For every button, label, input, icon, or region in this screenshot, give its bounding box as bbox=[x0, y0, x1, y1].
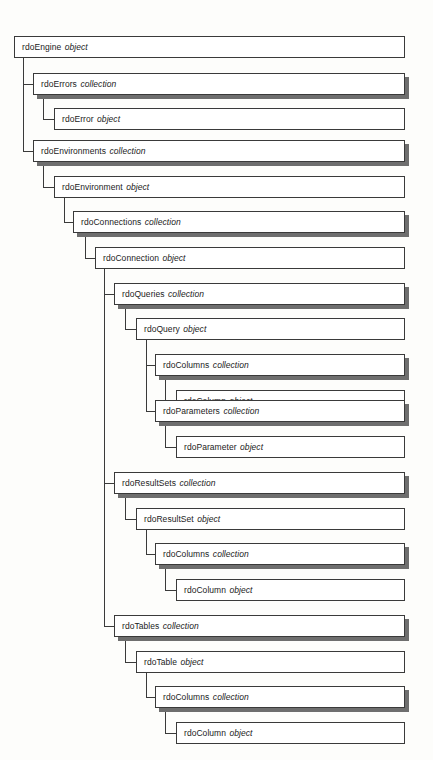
node-rdoEngine: rdoEngineobject bbox=[14, 36, 405, 58]
node-rdoTables: rdoTablescollection bbox=[114, 615, 405, 637]
node-label-name: rdoConnections bbox=[81, 217, 141, 227]
node-label-name: rdoErrors bbox=[41, 79, 77, 89]
node-rdoResultSets: rdoResultSetscollection bbox=[114, 472, 405, 494]
node-label-name: rdoColumns bbox=[163, 360, 209, 370]
node-label-name: rdoParameter bbox=[184, 442, 237, 452]
node-label-name: rdoColumn bbox=[184, 728, 226, 738]
node-rdoParameters: rdoParameterscollection bbox=[155, 400, 405, 422]
connector-vertical bbox=[43, 162, 44, 187]
node-label-name: rdoEnvironment bbox=[62, 182, 123, 192]
node-rdoError: rdoErrorobject bbox=[54, 108, 405, 130]
node-rdoResultSet-rdoColumn: rdoColumnobject bbox=[176, 579, 405, 601]
connector-vertical bbox=[146, 530, 147, 554]
node-rdoTable-rdoColumn: rdoColumnobject bbox=[176, 722, 405, 744]
node-label-name: rdoColumns bbox=[163, 692, 209, 702]
node-rdoTable: rdoTableobject bbox=[136, 651, 405, 673]
connector-vertical bbox=[146, 673, 147, 697]
node-label-name: rdoEngine bbox=[22, 42, 61, 52]
connector-vertical bbox=[165, 708, 166, 733]
connector-vertical bbox=[125, 637, 126, 662]
node-rdoQuery: rdoQueryobject bbox=[136, 318, 405, 340]
node-label-name: rdoParameters bbox=[163, 406, 220, 416]
node-label-name: rdoQuery bbox=[144, 324, 180, 334]
node-rdoTable-rdoColumns: rdoColumnscollection bbox=[155, 686, 405, 708]
node-label-kind: collection bbox=[213, 692, 249, 702]
connector-vertical bbox=[64, 198, 65, 222]
node-label-kind: collection bbox=[213, 360, 249, 370]
connector-vertical bbox=[165, 422, 166, 447]
connector-vertical bbox=[85, 233, 86, 258]
node-label-kind: collection bbox=[80, 79, 116, 89]
node-label-name: rdoTables bbox=[122, 621, 159, 631]
node-label-kind: object bbox=[181, 657, 204, 667]
node-label-kind: object bbox=[230, 728, 253, 738]
connector-vertical bbox=[125, 305, 126, 329]
node-label-kind: collection bbox=[163, 621, 199, 631]
connector-vertical bbox=[165, 565, 166, 590]
node-label-name: rdoQueries bbox=[122, 289, 165, 299]
node-label-kind: collection bbox=[180, 478, 216, 488]
node-label-name: rdoEnvironments bbox=[41, 146, 106, 156]
node-label-name: rdoConnection bbox=[103, 253, 159, 263]
node-rdoConnection: rdoConnectionobject bbox=[95, 247, 405, 269]
node-rdoQuery-rdoColumns: rdoColumnscollection bbox=[155, 354, 405, 376]
node-label-name: rdoResultSets bbox=[122, 478, 176, 488]
connector-vertical bbox=[23, 58, 24, 151]
node-label-kind: collection bbox=[213, 549, 249, 559]
node-rdoResultSet-rdoColumns: rdoColumnscollection bbox=[155, 543, 405, 565]
rdo-object-model-diagram: rdoEngineobjectrdoErrorscollectionrdoErr… bbox=[0, 0, 433, 760]
connector-vertical bbox=[104, 269, 105, 626]
node-label-kind: object bbox=[65, 42, 88, 52]
node-label-kind: object bbox=[183, 324, 206, 334]
node-label-kind: collection bbox=[168, 289, 204, 299]
connector-vertical bbox=[165, 376, 166, 401]
node-label-kind: object bbox=[162, 253, 185, 263]
node-rdoQueries: rdoQueriescollection bbox=[114, 283, 405, 305]
node-rdoConnections: rdoConnectionscollection bbox=[73, 211, 405, 233]
node-label-kind: collection bbox=[223, 406, 259, 416]
node-label-kind: object bbox=[97, 114, 120, 124]
node-label-name: rdoError bbox=[62, 114, 94, 124]
node-label-kind: collection bbox=[145, 217, 181, 227]
connector-vertical bbox=[43, 95, 44, 119]
node-label-name: rdoColumn bbox=[184, 585, 226, 595]
node-rdoParameter: rdoParameterobject bbox=[176, 436, 405, 458]
connector-vertical bbox=[125, 494, 126, 519]
node-label-name: rdoTable bbox=[144, 657, 177, 667]
node-label-name: rdoColumns bbox=[163, 549, 209, 559]
node-rdoErrors: rdoErrorscollection bbox=[33, 73, 405, 95]
node-rdoEnvironments: rdoEnvironmentscollection bbox=[33, 140, 405, 162]
node-label-kind: collection bbox=[110, 146, 146, 156]
node-rdoResultSet: rdoResultSetobject bbox=[136, 508, 405, 530]
node-label-kind: object bbox=[240, 442, 263, 452]
node-label-name: rdoResultSet bbox=[144, 514, 194, 524]
node-rdoEnvironment: rdoEnvironmentobject bbox=[54, 176, 405, 198]
node-label-kind: object bbox=[197, 514, 220, 524]
node-label-kind: object bbox=[230, 585, 253, 595]
node-label-kind: object bbox=[126, 182, 149, 192]
connector-vertical bbox=[146, 340, 147, 411]
